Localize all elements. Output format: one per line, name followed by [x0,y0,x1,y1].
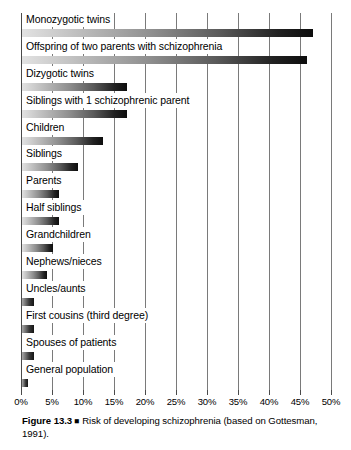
chart-row: Uncles/aunts [21,282,331,309]
x-tick [145,390,146,395]
chart-row: Parents [21,174,331,201]
bar [22,83,127,91]
x-tick-label: 40% [260,396,278,407]
bar [22,163,78,171]
bar-category-label: Grandchildren [25,227,94,242]
bar [22,190,59,198]
bar-category-label: Dizygotic twins [25,66,97,81]
x-tick [238,390,239,395]
bar-category-label: Siblings [25,146,65,161]
chart-row: Half siblings [21,201,331,228]
figure-marker-icon: ■ [72,416,82,426]
x-tick-label: 0% [14,396,27,407]
bar-category-label: Monozygotic twins [25,12,113,27]
chart-row: Offspring of two parents with schizophre… [21,40,331,67]
bar-chart-plot-area: Monozygotic twinsOffspring of two parent… [21,13,331,390]
bar [22,379,28,387]
bar [22,244,53,252]
x-tick-label: 45% [291,396,309,407]
chart-row: First cousins (third degree) [21,309,331,336]
chart-row: Siblings [21,147,331,174]
chart-row: Siblings with 1 schizophrenic parent [21,94,331,121]
bar-category-label: Parents [25,173,65,188]
bar-category-label: First cousins (third degree) [25,308,151,323]
bar [22,137,103,145]
x-tick [331,390,332,395]
x-tick-label: 5% [45,396,58,407]
x-tick-label: 15% [105,396,123,407]
bar-category-label: Half siblings [25,200,84,215]
x-axis: 0%5%10%15%20%25%30%35%40%45%50% [21,390,331,412]
figure-number: Figure 13.3 [22,415,72,426]
x-tick [269,390,270,395]
bar [22,217,59,225]
bar-category-label: Spouses of patients [25,335,119,350]
bar-category-label: Uncles/aunts [25,281,89,296]
x-tick [83,390,84,395]
chart-row: Monozygotic twins [21,13,331,40]
bar [22,110,127,118]
x-tick-label: 35% [229,396,247,407]
x-tick [207,390,208,395]
chart-row: Nephews/nieces [21,255,331,282]
x-tick-label: 25% [167,396,185,407]
x-tick [114,390,115,395]
chart-row: Dizygotic twins [21,67,331,94]
x-tick-label: 30% [198,396,216,407]
x-tick-label: 20% [136,396,154,407]
chart-row: Children [21,121,331,148]
gridline-50 [331,13,332,390]
x-tick-label: 10% [74,396,92,407]
x-tick [300,390,301,395]
x-tick [176,390,177,395]
bar-category-label: General population [25,362,116,377]
chart-row: Spouses of patients [21,336,331,363]
figure-caption: Figure 13.3■Risk of developing schizophr… [22,415,332,440]
bar-category-label: Siblings with 1 schizophrenic parent [25,93,192,108]
chart-row: Grandchildren [21,228,331,255]
x-tick-label: 50% [322,396,340,407]
chart-bar-rows: Monozygotic twinsOffspring of two parent… [21,13,331,390]
bar-category-label: Offspring of two parents with schizophre… [25,39,225,54]
x-tick [21,390,22,395]
bar [22,298,34,306]
bar [22,56,307,64]
bar-category-label: Children [25,120,67,135]
bar [22,325,34,333]
bar [22,271,47,279]
bar [22,352,34,360]
bar [22,29,313,37]
x-tick [52,390,53,395]
chart-row: General population [21,363,331,390]
figure-container: Monozygotic twinsOffspring of two parent… [0,0,351,450]
bar-category-label: Nephews/nieces [25,254,105,269]
